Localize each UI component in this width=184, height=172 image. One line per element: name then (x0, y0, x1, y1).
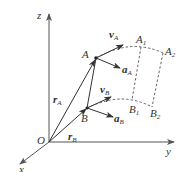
A1-label: A1 (135, 33, 146, 47)
y-axis-label: y (165, 145, 171, 157)
A-label: A (81, 48, 89, 60)
rB-label: rB (68, 130, 77, 144)
aA-label: aA (122, 63, 133, 77)
origin-label: O (37, 134, 45, 146)
A2-label: A2 (164, 45, 176, 59)
trajectory-A (96, 46, 163, 58)
B2-label: B2 (150, 107, 161, 121)
B-label: B (81, 112, 88, 124)
segment-A2-B2 (152, 53, 163, 107)
vector-aB (87, 108, 113, 117)
coordinate-axes: z y x O (18, 9, 174, 172)
rA-label: rA (53, 93, 62, 107)
vectors-at-A: vA aA (96, 28, 133, 77)
vA-label: vA (109, 28, 119, 42)
vector-vA (96, 45, 123, 58)
vector-vB (87, 97, 111, 108)
vector-aA (96, 58, 120, 68)
x-axis-label: x (18, 163, 24, 172)
aB-label: aB (114, 112, 125, 126)
kinematics-diagram: z y x O rA rB (0, 0, 184, 172)
segment-A1-B1 (132, 47, 141, 100)
z-axis-label: z (36, 9, 42, 21)
trajectories (87, 46, 163, 108)
vectors-at-B: vB aB (87, 83, 125, 126)
B1-label: B1 (129, 103, 139, 117)
vB-label: vB (100, 83, 110, 97)
